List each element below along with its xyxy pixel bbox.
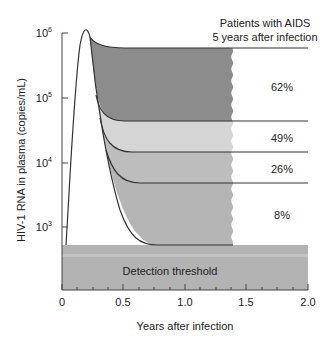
- y-axis: 106 105 104 103 HIV-1 RNA in plasma (cop…: [15, 26, 68, 290]
- x-tick-1-5: 1.5: [238, 296, 253, 308]
- legend-header-line-1: Patients with AIDS: [220, 17, 311, 29]
- percent-label-8: 8%: [274, 209, 290, 221]
- x-axis: 0 0.5 1.0 1.5 2.0 Years after infection: [59, 284, 316, 332]
- x-tick-0-5: 0.5: [115, 296, 130, 308]
- legend-header-line-2: 5 years after infection: [212, 31, 317, 43]
- percent-labels: 62% 49% 26% 8%: [271, 81, 293, 221]
- y-tick-1e4: 104: [36, 156, 52, 169]
- detection-threshold-label: Detection threshold: [123, 265, 218, 277]
- x-tick-1-0: 1.0: [177, 296, 192, 308]
- y-tick-1e3: 103: [36, 220, 52, 233]
- percent-label-49: 49%: [271, 132, 293, 144]
- legend-header: Patients with AIDS 5 years after infecti…: [212, 17, 317, 43]
- x-tick-2-0: 2.0: [300, 296, 315, 308]
- y-tick-1e5: 105: [36, 91, 52, 104]
- y-tick-1e6: 106: [36, 26, 52, 39]
- y-axis-label: HIV-1 RNA in plasma (copies/mL): [15, 78, 27, 242]
- band-62-percent: [90, 37, 233, 121]
- x-tick-0: 0: [59, 296, 65, 308]
- percent-label-26: 26%: [271, 163, 293, 175]
- chart: 106 105 104 103 HIV-1 RNA in plasma (cop…: [0, 0, 331, 346]
- x-axis-label: Years after infection: [137, 320, 234, 332]
- percent-label-62: 62%: [271, 81, 293, 93]
